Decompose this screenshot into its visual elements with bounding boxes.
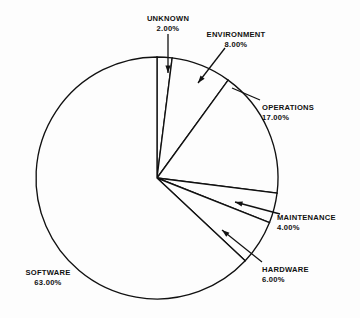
pie-label-name: MAINTENANCE (277, 213, 336, 223)
pie-label-value: 2.00% (147, 24, 189, 34)
pie-label-operations: OPERATIONS17.00% (262, 103, 314, 123)
pie-label-name: ENVIRONMENT (207, 30, 266, 40)
pie-label-hardware: HARDWARE6.00% (262, 265, 309, 285)
pie-slices-group (36, 57, 278, 299)
pie-label-value: 4.00% (277, 223, 336, 233)
pie-label-environment: ENVIRONMENT8.00% (207, 30, 266, 50)
pie-label-name: OPERATIONS (262, 103, 314, 113)
pie-label-value: 8.00% (207, 40, 266, 50)
pie-label-name: SOFTWARE (25, 268, 70, 278)
pie-label-value: 6.00% (262, 275, 309, 285)
pie-label-name: UNKNOWN (147, 14, 189, 24)
pie-label-value: 63.00% (25, 278, 70, 288)
pie-label-unknown: UNKNOWN2.00% (147, 14, 189, 34)
pie-chart-figure: UNKNOWN2.00%ENVIRONMENT8.00%OPERATIONS17… (0, 0, 360, 318)
pie-label-name: HARDWARE (262, 265, 309, 275)
pie-label-maintenance: MAINTENANCE4.00% (277, 213, 336, 233)
pie-label-software: SOFTWARE63.00% (25, 268, 70, 288)
pie-label-value: 17.00% (262, 113, 314, 123)
